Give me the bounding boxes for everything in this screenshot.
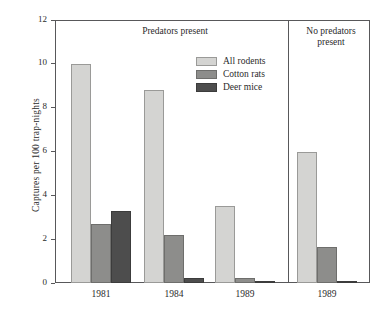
- legend-swatch-deer-mice: [196, 83, 217, 92]
- y-tick-label: 2: [25, 233, 47, 243]
- panel-title-line: present: [291, 37, 371, 48]
- chart-legend: All rodents Cotton rats Deer mice: [196, 55, 265, 94]
- bar-cotton-rats-1984-1: [164, 235, 184, 283]
- legend-item-deer-mice: Deer mice: [196, 81, 265, 93]
- y-tick-label: 0: [25, 277, 47, 287]
- legend-label-deer-mice: Deer mice: [223, 82, 262, 92]
- panel-title-line: No predators: [291, 26, 371, 37]
- x-axis-label-1984-1: 1984: [144, 289, 204, 299]
- bar-chart-figure: Captures per 100 trap-nights 024681012 1…: [0, 0, 381, 320]
- bar-deer-mice-1981-0: [111, 211, 131, 283]
- legend-item-cotton-rats: Cotton rats: [196, 68, 265, 80]
- y-axis-title: Captures per 100 trap-nights: [31, 55, 41, 255]
- panel-title-line: Predators present: [70, 26, 280, 37]
- y-tick-label: 6: [25, 145, 47, 155]
- y-tick-label: 4: [25, 189, 47, 199]
- bar-cotton-rats-1981-0: [91, 224, 111, 283]
- y-tick-label: 10: [25, 57, 47, 67]
- bar-cotton-rats-1989-2: [235, 278, 255, 283]
- panel-title-no-predators-present: No predatorspresent: [291, 26, 371, 48]
- y-tick-label: 8: [25, 101, 47, 111]
- legend-label-cotton-rats: Cotton rats: [223, 69, 265, 79]
- bar-all-rodents-1981-0: [71, 64, 91, 283]
- bar-deer-mice-1989-2: [255, 281, 275, 283]
- legend-item-all-rodents: All rodents: [196, 55, 265, 67]
- legend-swatch-all-rodents: [196, 57, 217, 66]
- bar-all-rodents-1989-2: [215, 206, 235, 283]
- bar-all-rodents-1984-1: [144, 90, 164, 283]
- bar-all-rodents-1989-3: [297, 152, 317, 284]
- legend-label-all-rodents: All rodents: [223, 56, 265, 66]
- bar-deer-mice-1984-1: [184, 278, 204, 283]
- bar-deer-mice-1989-3: [337, 281, 357, 283]
- x-axis-label-1981-0: 1981: [71, 289, 131, 299]
- bar-cotton-rats-1989-3: [317, 247, 337, 283]
- panel-title-predators-present: Predators present: [70, 26, 280, 37]
- x-axis-label-1989-2: 1989: [215, 289, 275, 299]
- y-tick-label: 12: [25, 14, 47, 24]
- legend-swatch-cotton-rats: [196, 70, 217, 79]
- x-axis-label-1989-3: 1989: [297, 289, 357, 299]
